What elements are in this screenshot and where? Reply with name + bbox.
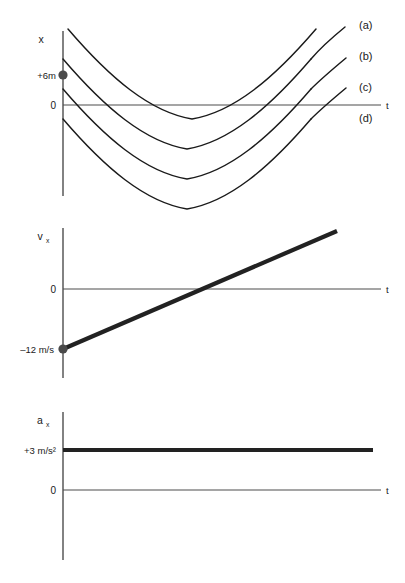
acceleration-value-label: +3 m/s²	[24, 445, 56, 456]
curve-label-b: (b)	[359, 50, 372, 62]
curve-label-a: (a)	[359, 19, 372, 31]
position-y-axis-label: x	[38, 33, 44, 45]
velocity-y-axis-subscript: x	[46, 237, 50, 244]
initial-velocity-label: –12 m/s	[20, 344, 54, 355]
position-curve-c	[63, 89, 311, 179]
position-curve-d	[63, 119, 311, 209]
velocity-graph-panel: v x t 0 –12 m/s	[20, 228, 389, 378]
acceleration-graph-panel: a x t 0 +3 m/s²	[24, 412, 389, 560]
curve-label-d: (d)	[359, 112, 372, 124]
position-graph-panel: x t 0 +6m (a) (b) (c) (d)	[37, 19, 389, 209]
curve-label-c: (c)	[359, 81, 372, 93]
initial-position-marker	[58, 70, 67, 79]
acceleration-y-axis-subscript: x	[46, 421, 50, 428]
physics-kinematics-graphs: x t 0 +6m (a) (b) (c) (d) v x t 0 –12 m/…	[0, 0, 405, 583]
initial-position-label: +6m	[37, 70, 56, 81]
acceleration-y-axis-label: a	[37, 414, 43, 426]
velocity-x-axis-label: t	[386, 284, 389, 295]
position-curve-d-tail	[311, 88, 346, 119]
position-curve-c-tail	[311, 58, 346, 89]
position-curve-b-tail	[311, 27, 345, 59]
initial-velocity-marker	[58, 344, 67, 353]
velocity-line	[63, 231, 337, 349]
position-zero-label: 0	[50, 100, 56, 111]
position-x-axis-label: t	[386, 100, 389, 111]
acceleration-x-axis-label: t	[386, 485, 389, 496]
velocity-zero-label: 0	[50, 284, 56, 295]
acceleration-zero-label: 0	[50, 485, 56, 496]
velocity-y-axis-label: v	[37, 230, 43, 242]
